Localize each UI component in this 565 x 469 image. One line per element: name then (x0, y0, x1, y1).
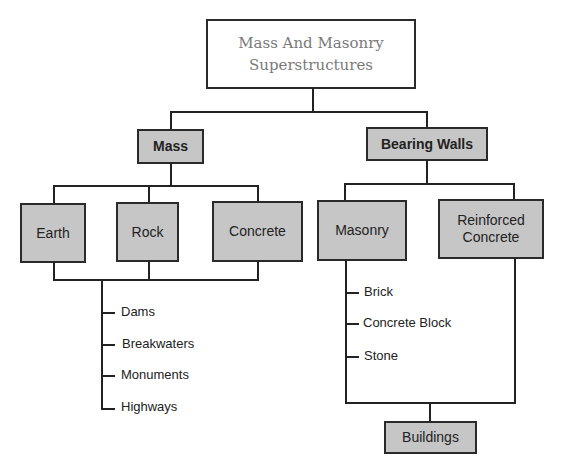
node-reinforced-concrete: Reinforced Concrete (438, 199, 544, 259)
node-label: Concrete (229, 223, 286, 240)
use-item: Dams (121, 304, 155, 319)
tick (101, 375, 115, 377)
node-label: Reinforced (457, 212, 525, 229)
tick (345, 356, 359, 358)
connector (53, 185, 259, 187)
connector (426, 160, 428, 185)
use-item: Monuments (121, 367, 189, 382)
tick (101, 344, 115, 346)
masonry-item: Stone (364, 348, 398, 363)
connector (344, 183, 515, 185)
node-label: Concrete (463, 229, 520, 246)
connector (53, 279, 259, 281)
masonry-item: Concrete Block (363, 315, 451, 330)
tick (101, 312, 115, 314)
connector (170, 111, 428, 113)
connector (257, 261, 259, 281)
node-label: Buildings (402, 429, 459, 446)
root-title-line2: Superstructures (249, 54, 373, 76)
connector (53, 185, 55, 203)
connector (148, 261, 150, 281)
node-label: Earth (36, 225, 69, 242)
connector (312, 88, 314, 112)
node-label: Rock (132, 224, 164, 241)
tick (345, 323, 359, 325)
root-title-line1: Mass And Masonry (238, 32, 384, 54)
connector (344, 183, 346, 200)
use-item: Highways (121, 399, 177, 414)
connector (257, 185, 259, 201)
root-node: Mass And Masonry Superstructures (206, 19, 416, 89)
node-masonry: Masonry (317, 200, 407, 261)
node-label: Mass (153, 138, 188, 155)
node-rock: Rock (116, 202, 179, 262)
connector (170, 111, 172, 129)
connector (513, 183, 515, 199)
connector (429, 402, 431, 422)
connector (426, 111, 428, 128)
tick (345, 292, 359, 294)
node-earth: Earth (20, 203, 86, 263)
tick (101, 408, 115, 410)
masonry-item: Brick (364, 284, 393, 299)
use-item: Breakwaters (122, 336, 194, 351)
node-bearing-walls: Bearing Walls (366, 127, 488, 161)
node-label: Bearing Walls (381, 136, 473, 153)
connector (148, 185, 150, 202)
node-buildings: Buildings (384, 421, 477, 454)
connector (514, 258, 516, 404)
node-label: Masonry (335, 222, 389, 239)
node-mass: Mass (137, 129, 204, 164)
connector (345, 260, 347, 404)
node-concrete: Concrete (212, 201, 303, 262)
connector (170, 163, 172, 186)
